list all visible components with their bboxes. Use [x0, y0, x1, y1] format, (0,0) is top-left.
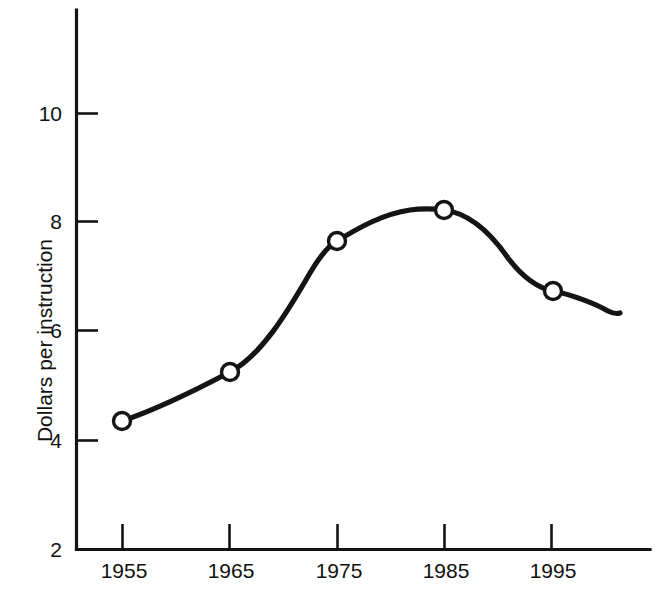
y-axis-title: Dollars per instruction — [34, 211, 55, 471]
data-point-1996 — [545, 283, 562, 300]
x-tick-label-1965: 1965 — [208, 560, 255, 581]
data-point-1955 — [114, 413, 131, 430]
chart-figure: 10 8 6 4 2 1955 1965 1975 1985 1995 Doll… — [0, 0, 657, 590]
y-tick-label-10: 10 — [6, 103, 62, 124]
y-tick-label-2: 2 — [6, 539, 62, 560]
x-tick-label-1975: 1975 — [316, 560, 363, 581]
data-line-dollars-per-instruction — [122, 209, 620, 421]
data-point-1985 — [436, 202, 453, 219]
chart-plot-area — [0, 0, 657, 590]
x-tick-label-1995: 1995 — [530, 560, 577, 581]
data-point-1965 — [222, 364, 239, 381]
data-point-1975 — [329, 233, 346, 250]
x-tick-label-1985: 1985 — [423, 560, 470, 581]
x-tick-label-1955: 1955 — [101, 560, 148, 581]
